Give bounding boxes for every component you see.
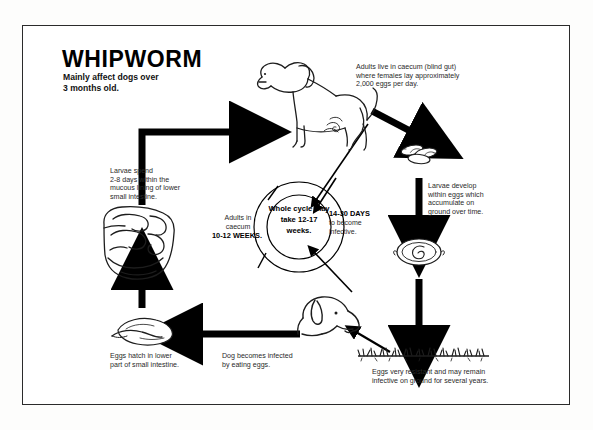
whipworm-lifecycle-poster: WHIPWORM Mainly affect dogs over 3 month… bbox=[0, 0, 593, 430]
caption-eggs-hatch: Eggs hatch in lower part of small intest… bbox=[110, 352, 220, 369]
caption-adults-in-caecum: Adults live in caecum (blind gut) where … bbox=[356, 63, 496, 89]
caption-larvae-spend: Larvae spend 2-8 days within the mucous … bbox=[110, 167, 210, 202]
arrow-ground-to-center bbox=[314, 252, 352, 292]
dog-head-eating-illustration bbox=[298, 297, 359, 336]
label-adults-weeks: 10-12 WEEKS. bbox=[204, 231, 270, 240]
page-title: WHIPWORM bbox=[62, 45, 202, 73]
intestine-illustration bbox=[104, 207, 174, 279]
arrow-dog-to-center bbox=[316, 124, 368, 200]
ground-grass-illustration bbox=[358, 348, 489, 361]
caption-eggs-resistant: Eggs very resistant and may remain infec… bbox=[372, 368, 552, 385]
center-cycle-label: Whole cycle may take 12-17 weeks. bbox=[268, 203, 330, 236]
arrow-dog-to-eggs bbox=[372, 111, 414, 133]
egg-cluster-illustration bbox=[400, 143, 437, 165]
arrow-ground-to-dog-head bbox=[356, 332, 390, 352]
caption-larvae-develop: Larvae develop within eggs which accumul… bbox=[428, 182, 520, 217]
label-become-infective: to become infective. bbox=[329, 219, 389, 236]
caption-dog-becomes-infected: Dog becomes infected by eating eggs. bbox=[222, 352, 332, 369]
larvated-egg-illustration bbox=[394, 239, 445, 265]
label-adults-in-caecum: Adults in caecum bbox=[210, 214, 266, 231]
hatching-egg-illustration bbox=[112, 318, 172, 345]
label-days-to-infective: 14-30 DAYS bbox=[329, 209, 370, 218]
poster-subtitle: Mainly affect dogs over 3 months old. bbox=[63, 72, 159, 94]
